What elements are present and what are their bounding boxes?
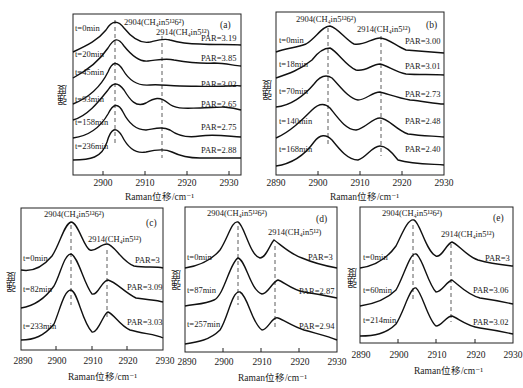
panel-e-tick: 2930 — [504, 350, 523, 360]
panel-e-time-2: t=214min — [363, 316, 396, 325]
panel-e-par-1: PAR=3.06 — [473, 286, 508, 295]
panel-e-tick: 2910 — [428, 350, 447, 360]
panel-e-label: (e) — [493, 213, 504, 223]
panel-e-ylabel: 强度 — [345, 268, 360, 288]
panel-e-par-0: PAR=3 — [485, 254, 510, 263]
panel-e-time-0: t=0min — [363, 253, 388, 262]
panel-e-tick: 2900 — [390, 350, 409, 360]
panel-e-tick: 2920 — [467, 350, 486, 360]
panel-e-peak2-label: 2914(CH₄in5¹²) — [441, 230, 494, 239]
panel-e-time-1: t=60min — [363, 286, 392, 295]
panel-e-tick: 2890 — [352, 350, 371, 360]
panel-e-par-2: PAR=3.02 — [473, 318, 508, 327]
panel-e-xlabel: Raman位移/cm⁻¹ — [414, 363, 483, 377]
panel-e-peak1-label: 2904(CH₄in5¹²6²) — [382, 209, 442, 218]
